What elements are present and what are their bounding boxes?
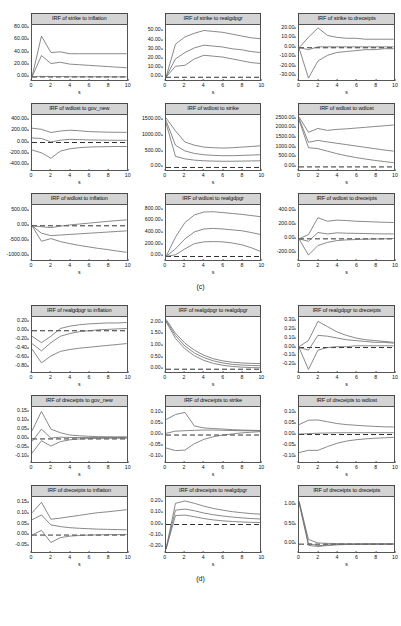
y-tick-mark bbox=[161, 345, 163, 346]
irf-curve-upper bbox=[32, 411, 127, 436]
y-tick-label: 0.00 bbox=[17, 222, 27, 227]
x-tick-label: 8 bbox=[107, 555, 110, 560]
y-tick-mark bbox=[161, 356, 163, 357]
irf-curve-lower bbox=[299, 346, 394, 370]
y-tick-mark bbox=[27, 523, 29, 524]
irf-panel: IRF of wdlost to strike0.00500.001000.00… bbox=[134, 102, 268, 192]
curve-canvas bbox=[299, 317, 394, 372]
y-tick-label: 500.00 bbox=[145, 148, 161, 153]
y-tick-mark bbox=[27, 544, 29, 545]
x-tick-label: 4 bbox=[202, 173, 205, 178]
irf-curve-median bbox=[166, 45, 261, 77]
curve-canvas bbox=[32, 497, 127, 552]
figure-sheet: IRF of strike to inflation0.0020.0040.00… bbox=[0, 0, 401, 626]
y-tick-label: 0.05 bbox=[151, 421, 161, 426]
curve-canvas bbox=[299, 205, 394, 260]
plot-area bbox=[31, 204, 128, 261]
x-axis: 0246810 bbox=[31, 259, 128, 269]
y-tick-mark bbox=[27, 420, 29, 421]
x-tick-label: 8 bbox=[374, 83, 377, 88]
y-tick-mark bbox=[294, 433, 296, 434]
plot-area bbox=[165, 204, 262, 261]
x-tick-label: 0 bbox=[297, 173, 300, 178]
y-tick-label: 1000.00 bbox=[142, 132, 161, 137]
x-tick-label: 4 bbox=[68, 465, 71, 470]
irf-curve-upper bbox=[299, 117, 394, 132]
x-tick-label: 0 bbox=[30, 173, 33, 178]
y-tick-mark bbox=[27, 39, 29, 40]
panel-wrapper: IRF of wdlost to gov_new-400.00-200.000.… bbox=[0, 102, 134, 192]
y-tick-label: -0.10 bbox=[149, 532, 161, 537]
x-tick-label: 8 bbox=[241, 465, 244, 470]
panel-wrapper: IRF of dreceipts to dreceipts0.000.501.0… bbox=[267, 484, 401, 574]
x-tick-label: 8 bbox=[241, 173, 244, 178]
x-tick-label: 0 bbox=[297, 465, 300, 470]
y-axis: -0.10-0.050.000.050.10 bbox=[134, 406, 163, 461]
x-tick-label: 10 bbox=[392, 173, 398, 178]
y-tick-label: -500.00 bbox=[9, 237, 27, 242]
x-axis-label: s bbox=[31, 561, 128, 567]
y-axis: -0.10-0.050.000.050.10 bbox=[267, 406, 296, 461]
x-axis-label: s bbox=[298, 269, 395, 275]
x-tick-label: 6 bbox=[221, 173, 224, 178]
irf-curve-upper bbox=[166, 31, 261, 78]
x-tick-label: 6 bbox=[355, 173, 358, 178]
x-axis-label: s bbox=[298, 471, 395, 477]
y-tick-label: 1.00 bbox=[284, 501, 294, 506]
x-tick-label: 6 bbox=[88, 83, 91, 88]
x-tick-label: 8 bbox=[374, 465, 377, 470]
irf-panel: IRF of wdlost to gov_new-400.00-200.000.… bbox=[0, 102, 134, 192]
y-tick-mark bbox=[27, 357, 29, 358]
x-tick-label: 8 bbox=[107, 263, 110, 268]
y-tick-mark bbox=[27, 254, 29, 255]
y-tick-mark bbox=[161, 150, 163, 151]
irf-curve-lower bbox=[299, 437, 394, 452]
x-tick-label: 2 bbox=[183, 465, 186, 470]
irf-panel: IRF of dreceipts to dreceipts0.000.501.0… bbox=[267, 484, 401, 574]
x-axis: 0246810 bbox=[298, 259, 395, 269]
y-tick-mark bbox=[27, 27, 29, 28]
curve-canvas bbox=[32, 25, 127, 80]
y-tick-mark bbox=[27, 339, 29, 340]
irf-curve-median bbox=[166, 120, 261, 155]
irf-curve-lower bbox=[166, 515, 261, 549]
irf-curve-upper bbox=[32, 220, 127, 228]
x-tick-label: 0 bbox=[163, 173, 166, 178]
x-tick-label: 6 bbox=[88, 465, 91, 470]
irf-curve-median bbox=[32, 138, 127, 142]
x-tick-label: 8 bbox=[241, 83, 244, 88]
y-tick-mark bbox=[27, 118, 29, 119]
x-axis: 0246810 bbox=[165, 371, 262, 381]
y-tick-mark bbox=[294, 252, 296, 253]
x-tick-label: 10 bbox=[258, 263, 264, 268]
y-axis: -0.050.000.050.100.15 bbox=[0, 496, 29, 551]
x-tick-label: 2 bbox=[49, 375, 52, 380]
x-tick-label: 10 bbox=[258, 83, 264, 88]
x-tick-label: 4 bbox=[68, 173, 71, 178]
y-tick-label: 20.00 bbox=[148, 55, 161, 60]
curve-canvas bbox=[166, 205, 261, 260]
y-tick-mark bbox=[27, 224, 29, 225]
x-tick-label: 6 bbox=[221, 83, 224, 88]
y-tick-label: 0.00 bbox=[17, 73, 27, 78]
y-tick-mark bbox=[161, 444, 163, 445]
panel-wrapper: IRF of wdlost to realgdpgr0.00200.00400.… bbox=[134, 192, 268, 282]
y-tick-label: -400.00 bbox=[9, 162, 27, 167]
y-tick-mark bbox=[161, 220, 163, 221]
x-tick-label: 2 bbox=[49, 555, 52, 560]
y-tick-label: 0.15 bbox=[17, 409, 27, 414]
y-tick-label: 400.00 bbox=[145, 229, 161, 234]
y-tick-label: 0.00 bbox=[284, 235, 294, 240]
y-tick-label: 0.00 bbox=[17, 139, 27, 144]
x-axis-label: s bbox=[298, 179, 395, 185]
y-tick-label: 0.00 bbox=[151, 431, 161, 436]
x-tick-label: 8 bbox=[241, 263, 244, 268]
y-tick-label: 1500.00 bbox=[142, 116, 161, 121]
y-axis: 0.000.501.00 bbox=[267, 496, 296, 551]
x-axis-label: s bbox=[165, 89, 262, 95]
y-axis: -400.00-200.000.00200.00400.00 bbox=[0, 114, 29, 169]
y-tick-mark bbox=[27, 130, 29, 131]
x-tick-label: 8 bbox=[241, 375, 244, 380]
y-tick-label: 0.00 bbox=[284, 431, 294, 436]
curve-canvas bbox=[166, 25, 261, 80]
